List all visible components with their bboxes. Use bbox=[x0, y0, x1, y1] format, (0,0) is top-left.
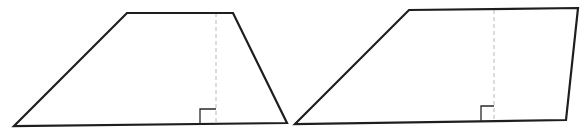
trapezoid-left-outline bbox=[14, 13, 287, 126]
trapezoids-svg bbox=[0, 0, 586, 132]
trapezoid-left bbox=[14, 13, 287, 126]
right-angle-marker-left bbox=[200, 109, 216, 124]
right-angle-marker-right bbox=[481, 106, 494, 121]
trapezoid-right-outline bbox=[295, 8, 578, 124]
trapezoid-right bbox=[295, 8, 578, 124]
diagram-canvas bbox=[0, 0, 586, 132]
